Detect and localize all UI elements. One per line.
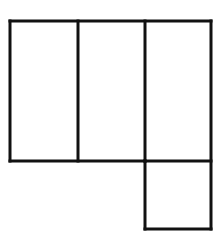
- middle-rectangle: [78, 21, 145, 161]
- right-rectangle: [145, 21, 211, 161]
- bottom-rectangle: [145, 161, 211, 229]
- net-figure: Net of four rectangles Line drawing of a…: [0, 0, 220, 238]
- left-rectangle: [10, 21, 78, 161]
- figure-canvas: Net of four rectangles Line drawing of a…: [0, 0, 220, 238]
